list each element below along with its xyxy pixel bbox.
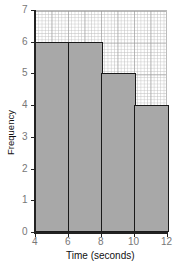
y-tick-label: 6	[22, 37, 28, 47]
y-tick-mark	[31, 73, 35, 74]
y-tick-mark	[31, 137, 35, 138]
y-tick-mark	[31, 200, 35, 201]
x-tick-label: 8	[98, 237, 104, 247]
x-tick-label: 12	[161, 237, 172, 247]
histogram-bar: 6	[68, 42, 103, 232]
x-tick-label: 10	[128, 237, 139, 247]
y-tick-label: 3	[22, 132, 28, 142]
x-axis-label: Time (seconds)	[66, 250, 135, 261]
y-tick-mark	[31, 42, 35, 43]
y-tick-label: 4	[22, 100, 28, 110]
y-tick-label: 7	[22, 5, 28, 15]
y-tick-label: 1	[22, 195, 28, 205]
x-tick-label: 6	[65, 237, 71, 247]
x-tick-label: 4	[32, 237, 38, 247]
histogram-chart: Frequency Time (seconds) 665401234567468…	[0, 0, 174, 266]
y-tick-mark	[31, 105, 35, 106]
histogram-bar: 6	[35, 42, 70, 232]
y-tick-label: 2	[22, 164, 28, 174]
y-tick-mark	[31, 10, 35, 11]
histogram-bar: 4	[134, 105, 169, 232]
histogram-bar: 5	[101, 73, 136, 232]
y-axis-label: Frequency	[5, 105, 16, 161]
y-tick-mark	[31, 169, 35, 170]
y-tick-label: 0	[22, 227, 28, 237]
y-tick-label: 5	[22, 68, 28, 78]
